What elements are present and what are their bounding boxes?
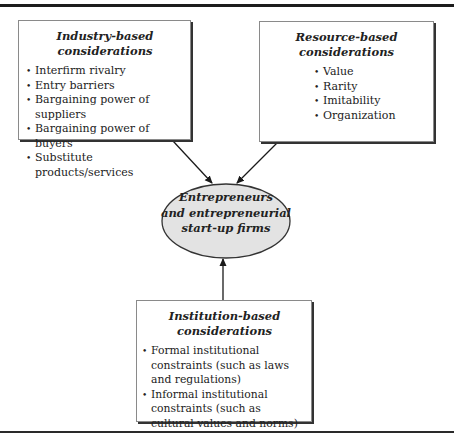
title-line: considerations	[142, 324, 307, 339]
title-line: considerations	[26, 44, 184, 59]
list-item: Bargaining power of suppliers	[26, 93, 184, 122]
resource-box-title: Resource-based considerations	[266, 30, 427, 60]
arrow-resource-to-center	[237, 143, 277, 183]
list-item: Organization	[314, 109, 427, 124]
list-item: Bargaining power of buyers	[26, 122, 184, 151]
title-line: Industry-based	[26, 29, 184, 44]
institution-box-title: Institution-based considerations	[142, 309, 307, 339]
institution-based-box: Institution-based considerations Formal …	[136, 300, 312, 422]
list-item: Substitute products/services	[26, 151, 184, 180]
center-label-line: Entrepreneurs	[161, 190, 291, 206]
list-item: Rarity	[314, 80, 427, 95]
resource-list: Value Rarity Imitability Organization	[314, 65, 427, 123]
industry-based-box: Industry-based considerations Interfirm …	[18, 20, 191, 140]
list-item: Value	[314, 65, 427, 80]
center-label: Entrepreneurs and entrepreneurial start-…	[161, 190, 291, 237]
bottom-rule	[0, 431, 454, 433]
title-line: Institution-based	[142, 309, 307, 324]
center-label-line: and entrepreneurial	[161, 206, 291, 222]
list-item: Entry barriers	[26, 79, 184, 94]
list-item: Informal institutional constraints (such…	[142, 388, 307, 432]
industry-list: Interfirm rivalry Entry barriers Bargain…	[26, 64, 184, 180]
resource-based-box: Resource-based considerations Value Rari…	[259, 21, 434, 142]
institution-list: Formal institutional constraints (such a…	[142, 344, 307, 431]
title-line: Resource-based	[266, 30, 427, 45]
industry-box-title: Industry-based considerations	[26, 29, 184, 59]
list-item: Imitability	[314, 94, 427, 109]
title-line: considerations	[266, 45, 427, 60]
center-label-line: start-up firms	[161, 221, 291, 237]
list-item: Interfirm rivalry	[26, 64, 184, 79]
list-item: Formal institutional constraints (such a…	[142, 344, 307, 388]
